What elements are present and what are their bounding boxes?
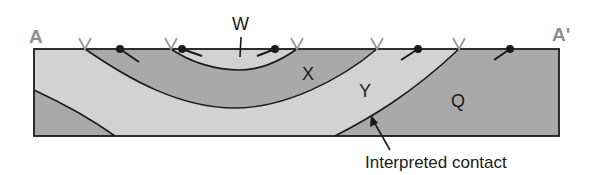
v-mark-icon [291, 38, 303, 49]
interpreted-contact-label: Interpreted contact [365, 153, 507, 172]
unit-w-label: W [232, 14, 249, 34]
v-mark-icon [371, 38, 383, 49]
v-mark-icon [79, 38, 91, 49]
unit-y-label: Y [359, 81, 371, 101]
w-leader-line [240, 37, 241, 57]
unit-x-label: X [302, 64, 314, 84]
v-mark-icon [165, 38, 177, 49]
section-end-label: A' [552, 24, 570, 45]
unit-q-label: Q [451, 91, 465, 111]
cross-section-diagram: A A' W X Y Q Interpreted contact [0, 0, 590, 175]
section-start-label: A [29, 26, 43, 47]
v-mark-icon [453, 38, 465, 49]
rock-units [34, 49, 559, 136]
